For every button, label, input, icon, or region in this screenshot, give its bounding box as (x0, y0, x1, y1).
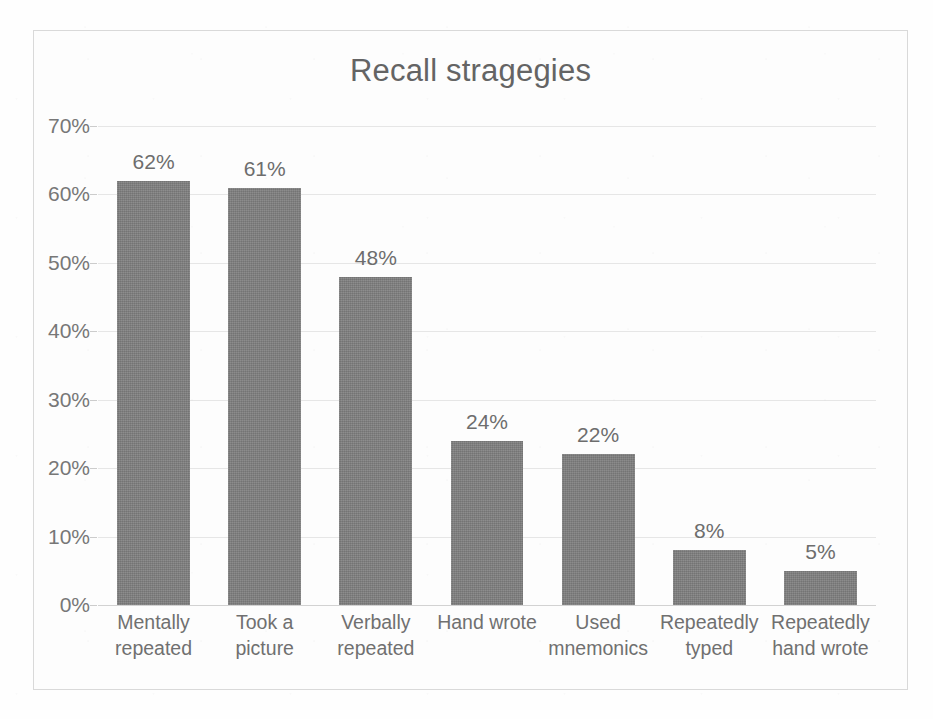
y-axis-tick-label: 20% (28, 456, 90, 480)
x-axis-category-line: Hand wrote (425, 609, 548, 635)
bar-value-label: 48% (317, 246, 434, 270)
x-axis-category-line: hand wrote (759, 635, 882, 661)
gridline (98, 605, 876, 606)
x-axis-category-line: mnemonics (537, 635, 660, 661)
x-axis-category-line: Mentally (92, 609, 215, 635)
x-axis-category-line: Repeatedly (648, 609, 771, 635)
bar[interactable] (673, 550, 746, 605)
x-axis-category-label: Repeatedlyhand wrote (759, 609, 882, 661)
y-axis-tick-mark (90, 126, 97, 127)
bar[interactable] (451, 441, 524, 605)
bar-value-label: 24% (429, 410, 546, 434)
y-axis-tick-label: 60% (28, 182, 90, 206)
x-axis-category-label: Mentallyrepeated (92, 609, 215, 661)
y-axis-tick-mark (90, 400, 97, 401)
y-axis-tick-label: 0% (28, 593, 90, 617)
x-axis-category-line: picture (203, 635, 326, 661)
x-axis-category-label: Verballyrepeated (314, 609, 437, 661)
y-axis-tick-mark (90, 331, 97, 332)
bar-slot: 8% (673, 126, 746, 605)
x-axis-category-line: Verbally (314, 609, 437, 635)
bar-slot: 5% (784, 126, 857, 605)
x-axis-category-label: Usedmnemonics (537, 609, 660, 661)
y-axis: 70%60%50%40%30%20%10%0% (34, 126, 90, 605)
bar[interactable] (117, 181, 190, 605)
bar-value-label: 61% (206, 157, 323, 181)
bar-value-label: 22% (540, 423, 657, 447)
y-axis-tick-label: 70% (28, 114, 90, 138)
bar-slot: 22% (562, 126, 635, 605)
bar-value-label: 8% (651, 519, 768, 543)
bar-slot: 62% (117, 126, 190, 605)
bar-slot: 24% (451, 126, 524, 605)
x-axis-category-label: Hand wrote (425, 609, 548, 635)
chart-title: Recall stragegies (34, 53, 907, 89)
bar-value-label: 5% (762, 540, 879, 564)
x-axis-category-line: repeated (314, 635, 437, 661)
plot-area: 62%61%48%24%22%8%5% (98, 126, 876, 605)
x-axis-category-label: Took apicture (203, 609, 326, 661)
bar-slot: 61% (228, 126, 301, 605)
x-axis-category-line: Took a (203, 609, 326, 635)
page-background: Recall stragegies 70%60%50%40%30%20%10%0… (0, 0, 933, 719)
y-axis-tick-mark (90, 263, 97, 264)
y-axis-tick-label: 40% (28, 319, 90, 343)
x-axis-category-line: typed (648, 635, 771, 661)
x-axis-category-line: repeated (92, 635, 215, 661)
bar[interactable] (228, 188, 301, 605)
y-axis-tick-mark (90, 537, 97, 538)
bar-slot: 48% (339, 126, 412, 605)
x-axis-category-line: Used (537, 609, 660, 635)
x-axis-category-label: Repeatedlytyped (648, 609, 771, 661)
x-axis-labels: MentallyrepeatedTook apictureVerballyrep… (98, 609, 876, 679)
y-axis-tick-label: 10% (28, 525, 90, 549)
bar[interactable] (339, 277, 412, 605)
y-axis-tick-mark (90, 194, 97, 195)
y-axis-tick-label: 50% (28, 251, 90, 275)
y-axis-tick-mark (90, 468, 97, 469)
bar[interactable] (562, 454, 635, 605)
y-axis-tick-mark (90, 605, 97, 606)
x-axis-category-line: Repeatedly (759, 609, 882, 635)
y-axis-tick-label: 30% (28, 388, 90, 412)
chart-container: Recall stragegies 70%60%50%40%30%20%10%0… (33, 30, 908, 690)
bar[interactable] (784, 571, 857, 605)
bar-value-label: 62% (95, 150, 212, 174)
